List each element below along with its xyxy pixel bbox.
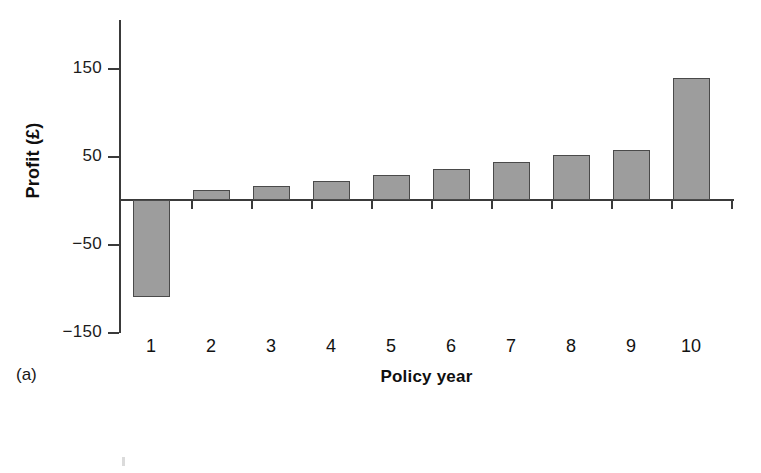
x-axis-tick-8	[611, 201, 613, 209]
x-tick-label-8: 8	[542, 336, 600, 357]
bar-year-7	[493, 162, 530, 200]
bar-year-2	[193, 190, 230, 200]
x-tick-label-4: 4	[302, 336, 360, 357]
x-axis-tick-3	[311, 201, 313, 209]
x-axis-tick-4	[371, 201, 373, 209]
y-axis-tick-labels: 150 50 −50 −150	[36, 0, 102, 360]
bar-year-4	[313, 181, 350, 200]
x-tick-label-5: 5	[362, 336, 420, 357]
bar-year-5	[373, 175, 410, 200]
x-axis-tick-10	[731, 201, 733, 209]
x-axis-title: Policy year	[119, 367, 734, 387]
scan-artifact-speck	[122, 457, 125, 466]
x-tick-label-6: 6	[422, 336, 480, 357]
x-axis-tick-1	[191, 201, 193, 209]
y-axis-tick-50	[108, 156, 119, 158]
y-tick-label-minus50: −50	[42, 234, 102, 254]
x-axis-tick-6	[491, 201, 493, 209]
bar-year-9	[613, 150, 650, 200]
bar-year-10	[673, 78, 710, 200]
x-tick-label-2: 2	[182, 336, 240, 357]
x-tick-label-1: 1	[122, 336, 180, 357]
x-axis-tick-7	[551, 201, 553, 209]
bar-year-3	[253, 186, 290, 200]
bar-year-1	[133, 200, 170, 297]
y-axis-tick-minus50	[108, 244, 119, 246]
x-axis-tick-9	[671, 201, 673, 209]
y-axis-tick-minus150	[108, 332, 119, 334]
x-axis-tick-2	[251, 201, 253, 209]
y-tick-label-50: 50	[42, 146, 102, 166]
y-axis-tick-150	[108, 68, 119, 70]
x-tick-label-10: 10	[662, 336, 720, 357]
x-tick-label-7: 7	[482, 336, 540, 357]
bar-year-6	[433, 169, 470, 200]
panel-label: (a)	[16, 365, 37, 385]
y-tick-label-minus150: −150	[42, 322, 102, 342]
x-axis-tick-5	[431, 201, 433, 209]
x-tick-label-3: 3	[242, 336, 300, 357]
y-tick-label-150: 150	[42, 58, 102, 78]
x-tick-label-9: 9	[602, 336, 660, 357]
bar-chart-figure: Profit (£) 150 50 −50 −150 1 2 3 4 5 6 7…	[0, 0, 761, 473]
y-axis-line	[119, 20, 121, 333]
bar-year-8	[553, 155, 590, 200]
